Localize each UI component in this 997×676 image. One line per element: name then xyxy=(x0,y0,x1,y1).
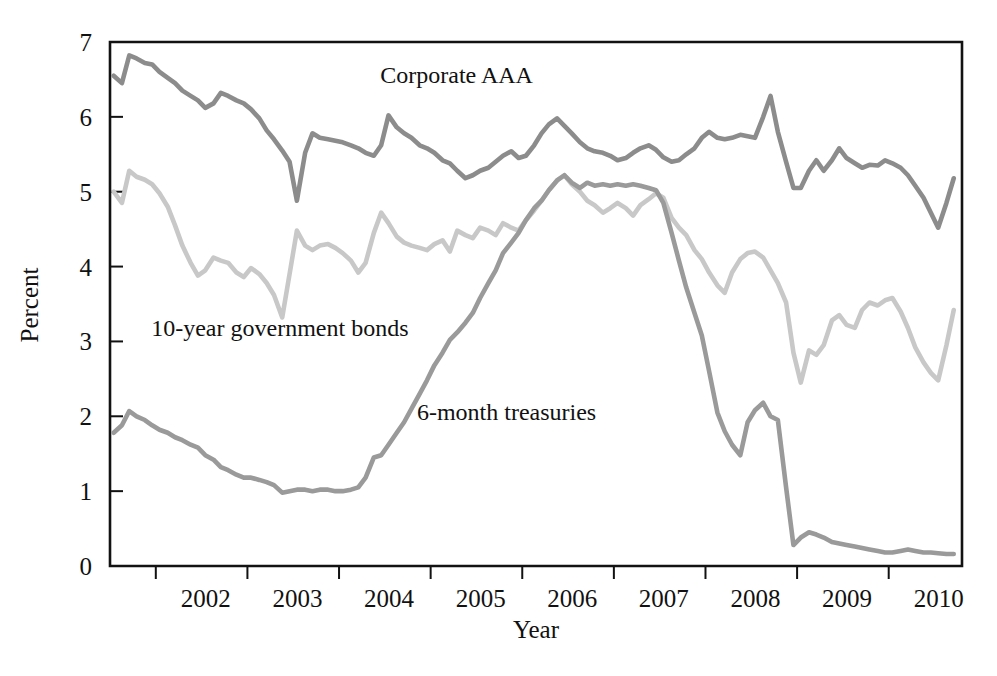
x-tick-label: 2005 xyxy=(456,585,506,612)
y-tick-label: 5 xyxy=(80,179,93,206)
chart-canvas: 01234567 2002200320042005200620072008200… xyxy=(0,0,997,676)
x-axis-title: Year xyxy=(513,616,560,643)
series-lines xyxy=(114,55,954,554)
y-tick-label: 7 xyxy=(80,29,93,56)
axis-frame xyxy=(110,42,962,566)
y-tick-label: 6 xyxy=(80,104,93,131)
x-tick-label: 2008 xyxy=(730,585,780,612)
interest-rates-chart: 01234567 2002200320042005200620072008200… xyxy=(0,0,997,676)
annotation-corporate-aaa: Corporate AAA xyxy=(380,62,533,88)
series-annotations: Corporate AAA10-year government bonds6-m… xyxy=(151,62,596,425)
annotation-10-year-government-bonds: 10-year government bonds xyxy=(151,315,408,341)
series-line-corporate-aaa xyxy=(114,55,954,227)
y-tick-label: 4 xyxy=(80,254,93,281)
y-tick-label: 2 xyxy=(80,403,93,430)
x-tick-label: 2003 xyxy=(272,585,322,612)
series-line-6-month-treasuries xyxy=(114,175,954,554)
x-tick-label: 2007 xyxy=(639,585,689,612)
y-tick-label: 0 xyxy=(80,553,93,580)
x-tick-label: 2010 xyxy=(914,585,964,612)
x-tick-label: 2009 xyxy=(822,585,872,612)
series-line-10-year-government-bonds xyxy=(114,171,954,383)
plot-frame xyxy=(110,42,962,566)
x-tick-label: 2006 xyxy=(547,585,597,612)
y-tick-label: 1 xyxy=(80,478,93,505)
y-axis-ticks: 01234567 xyxy=(80,29,124,580)
x-tick-label: 2004 xyxy=(364,585,415,612)
y-axis-title: Percent xyxy=(16,267,43,342)
x-axis-ticks: 200220032004200520062007200820092010 xyxy=(156,566,964,612)
annotation-6-month-treasuries: 6-month treasuries xyxy=(417,399,596,425)
x-tick-label: 2002 xyxy=(181,585,231,612)
y-tick-label: 3 xyxy=(80,328,93,355)
